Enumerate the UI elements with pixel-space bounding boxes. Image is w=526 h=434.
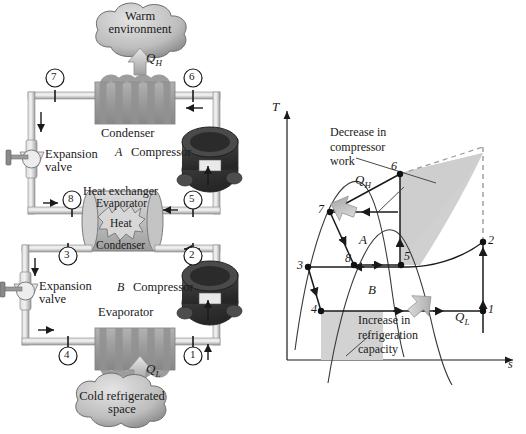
state-circle-1: 1 bbox=[190, 349, 196, 361]
ts-cycle-a-label: A bbox=[359, 233, 367, 247]
state-circle-5: 5 bbox=[189, 193, 195, 205]
qh-ts-symbol: Q bbox=[355, 172, 364, 187]
condenser-coil bbox=[95, 78, 175, 124]
state-circle-4: 4 bbox=[64, 349, 70, 361]
expansion-valve-b bbox=[0, 272, 38, 310]
left-schematic bbox=[0, 0, 275, 434]
dot-7 bbox=[327, 209, 333, 215]
state-circle-6: 6 bbox=[189, 71, 195, 83]
expansion-valve-a-line2: valve bbox=[45, 160, 72, 174]
qh-schematic-label: QH bbox=[146, 51, 162, 68]
expansion-valve-b-line1: Expansion bbox=[39, 279, 92, 293]
ts-state-2: 2 bbox=[488, 234, 494, 247]
ql-ts-label: QL bbox=[455, 310, 469, 327]
warm-environment-line2: environment bbox=[108, 22, 171, 36]
increase-line2: refrigeration bbox=[358, 328, 418, 342]
ts-state-8: 8 bbox=[345, 252, 351, 265]
warm-environment-line1: Warm bbox=[125, 9, 155, 23]
cold-space-label: Cold refrigerated space bbox=[74, 390, 170, 416]
ts-state-4: 4 bbox=[311, 303, 317, 316]
decrease-line1: Decrease in bbox=[330, 125, 386, 139]
state-circle-3: 3 bbox=[64, 249, 70, 261]
condenser-label: Condenser bbox=[101, 127, 154, 140]
ql-ts-subscript: L bbox=[464, 317, 469, 327]
ts-cycle-b-label: B bbox=[368, 283, 376, 297]
warm-environment-label: Warm environment bbox=[92, 10, 188, 36]
expansion-valve-b-line2: valve bbox=[39, 292, 66, 306]
ql-ts-symbol: Q bbox=[455, 309, 464, 324]
dot-2 bbox=[480, 239, 486, 245]
cold-space-line2: space bbox=[108, 402, 136, 416]
decrease-line2: compressor bbox=[330, 140, 385, 154]
heat-exchanger-label: Heat exchanger bbox=[83, 185, 158, 198]
qh-symbol: Q bbox=[146, 50, 155, 65]
ts-y-axis-label: T bbox=[272, 100, 279, 114]
ql-schematic-label: QL bbox=[146, 362, 160, 379]
expansion-valve-a bbox=[6, 140, 44, 178]
hx-evaporator-label: Evaporator bbox=[96, 197, 147, 209]
compressor-a-unit bbox=[177, 127, 242, 192]
decrease-compressor-work-annotation: Decrease in compressor work bbox=[330, 125, 386, 169]
evaporator-label: Evaporator bbox=[98, 306, 154, 319]
ts-state-5: 5 bbox=[404, 250, 410, 263]
schematic-svg bbox=[0, 0, 275, 434]
dot-8 bbox=[351, 262, 357, 268]
expansion-valve-a-label: Expansion valve bbox=[45, 148, 98, 174]
qh-ts-label: QH bbox=[355, 173, 371, 190]
qh-ts-subscript: H bbox=[364, 180, 371, 190]
compressor-b-label: Compressor bbox=[133, 281, 193, 294]
figure-root: Warm environment QH Condenser A Compress… bbox=[0, 0, 526, 434]
cold-space-line1: Cold refrigerated bbox=[79, 389, 165, 403]
increase-line1: Increase in bbox=[358, 313, 410, 327]
state-circle-2: 2 bbox=[189, 249, 195, 261]
hx-condenser-label: Condenser bbox=[96, 239, 145, 251]
ql-subscript: L bbox=[155, 369, 160, 379]
hx-heat-label: Heat bbox=[110, 217, 132, 229]
ts-x-axis-label: s bbox=[508, 358, 513, 371]
cycle-a-letter: A bbox=[115, 146, 122, 159]
state-circle-8: 8 bbox=[68, 193, 74, 205]
increase-refrigeration-capacity-annotation: Increase in refrigeration capacity bbox=[358, 313, 418, 357]
ts-state-1: 1 bbox=[488, 303, 494, 316]
expansion-valve-b-label: Expansion valve bbox=[39, 280, 92, 306]
cycle-b-letter: B bbox=[117, 281, 124, 294]
expansion-valve-a-line1: Expansion bbox=[45, 147, 98, 161]
qh-arrow-ts bbox=[326, 191, 359, 224]
ql-symbol: Q bbox=[146, 361, 155, 376]
compressor-a-label: Compressor bbox=[131, 146, 191, 159]
qh-subscript: H bbox=[155, 58, 162, 68]
ts-state-6: 6 bbox=[391, 160, 397, 173]
dot-6 bbox=[397, 171, 403, 177]
ts-state-7: 7 bbox=[318, 203, 324, 216]
dot-4 bbox=[318, 308, 324, 314]
state-circle-7: 7 bbox=[51, 71, 57, 83]
dot-3 bbox=[305, 264, 311, 270]
increase-line3: capacity bbox=[358, 342, 398, 356]
ts-state-3: 3 bbox=[297, 259, 303, 272]
decrease-line3: work bbox=[330, 154, 355, 168]
dot-1 bbox=[480, 308, 486, 314]
